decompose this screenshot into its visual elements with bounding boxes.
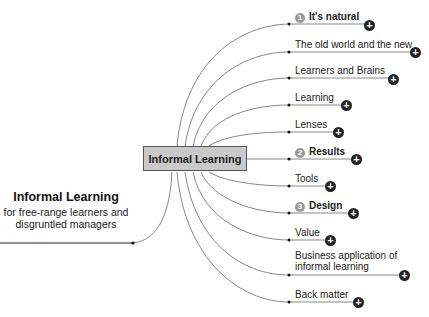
branch-label: Back matter xyxy=(295,289,348,300)
branch-label: Lenses xyxy=(295,119,327,130)
root-subtitle: for free-range learners and disgruntled … xyxy=(0,206,132,230)
number-badge: 1 xyxy=(295,13,305,23)
branch-label: Business application of xyxy=(295,250,397,261)
expand-plus-icon[interactable]: + xyxy=(399,270,410,281)
number-badge: 3 xyxy=(295,202,305,212)
branch-back-matter[interactable]: Back matter xyxy=(295,289,348,300)
expand-plus-icon[interactable]: + xyxy=(351,154,362,165)
root-title: Informal Learning xyxy=(0,190,132,204)
branch-label: Value xyxy=(295,227,320,238)
expand-plus-icon[interactable]: + xyxy=(341,100,352,111)
root-subtitle-line2: disgruntled managers xyxy=(0,218,132,230)
branch-value[interactable]: Value xyxy=(295,227,320,238)
branch-business-application[interactable]: Business application of informal learnin… xyxy=(295,250,397,272)
branch-label: It's natural xyxy=(309,11,359,22)
central-topic-node[interactable]: Informal Learning xyxy=(143,146,247,171)
branch-label: Tools xyxy=(295,173,318,184)
expand-plus-icon[interactable]: + xyxy=(410,47,421,58)
branch-label: The old world and the new xyxy=(295,39,412,50)
root-subtitle-line1: for free-range learners and xyxy=(0,206,132,218)
branch-learning[interactable]: Learning xyxy=(295,92,334,103)
branch-its-natural[interactable]: 1It's natural xyxy=(295,11,359,23)
central-topic-label: Informal Learning xyxy=(149,153,242,165)
expand-plus-icon[interactable]: + xyxy=(325,181,336,192)
branch-label: Learners and Brains xyxy=(295,65,385,76)
branch-lenses[interactable]: Lenses xyxy=(295,119,327,130)
branch-design[interactable]: 3Design xyxy=(295,200,342,212)
branch-label: Design xyxy=(309,200,342,211)
expand-plus-icon[interactable]: + xyxy=(333,127,344,138)
expand-plus-icon[interactable]: + xyxy=(388,74,399,85)
expand-plus-icon[interactable]: + xyxy=(353,297,364,308)
expand-plus-icon[interactable]: + xyxy=(325,235,336,246)
branch-label: Results xyxy=(309,146,345,157)
expand-plus-icon[interactable]: + xyxy=(364,20,375,31)
branch-old-world-new[interactable]: The old world and the new xyxy=(295,39,412,50)
branch-results[interactable]: 2Results xyxy=(295,146,345,158)
expand-plus-icon[interactable]: + xyxy=(348,208,359,219)
branch-label-line2: informal learning xyxy=(295,261,397,272)
branch-label: Learning xyxy=(295,92,334,103)
branch-learners-brains[interactable]: Learners and Brains xyxy=(295,65,385,76)
number-badge: 2 xyxy=(295,148,305,158)
branch-tools[interactable]: Tools xyxy=(295,173,318,184)
